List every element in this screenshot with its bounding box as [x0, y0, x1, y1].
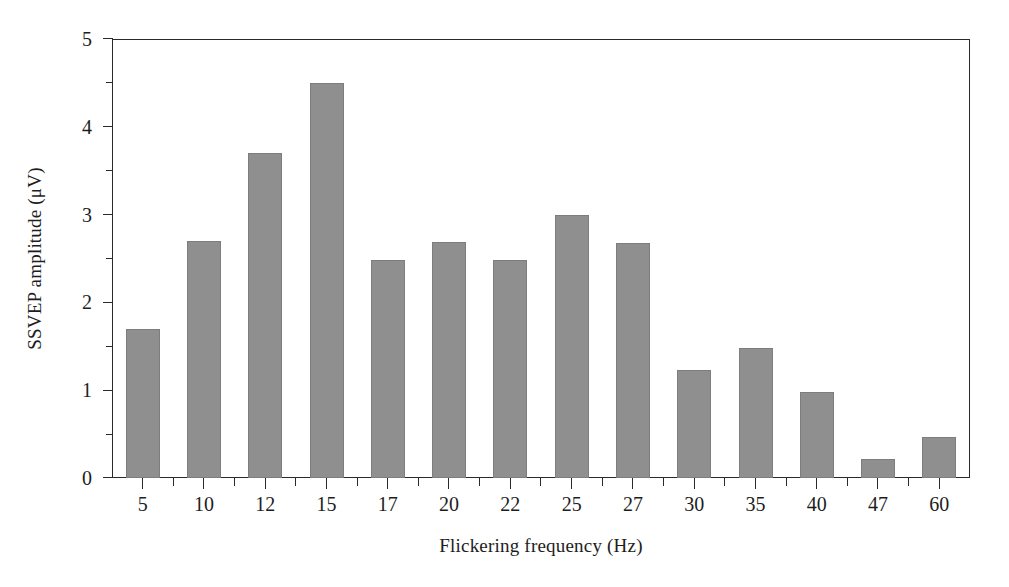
x-axis-tick-major: [510, 478, 511, 489]
bar: [187, 241, 221, 478]
bar: [800, 392, 834, 478]
x-axis-tick-minor: [295, 478, 296, 486]
x-axis-tick-major: [142, 478, 143, 489]
y-axis-tick-label: 5: [52, 29, 92, 49]
y-axis-tick-label: 3: [52, 205, 92, 225]
x-axis-tick-minor: [602, 478, 603, 486]
x-axis-tick-label: 22: [475, 494, 545, 514]
x-axis-tick-major: [203, 478, 204, 489]
x-axis-tick-label: 5: [108, 494, 178, 514]
x-axis-tick-minor: [663, 478, 664, 486]
x-axis-tick-minor: [479, 478, 480, 486]
x-axis-tick-label: 12: [230, 494, 300, 514]
bars-layer: [112, 39, 970, 478]
bar: [677, 370, 711, 478]
x-axis-tick-label: 47: [843, 494, 913, 514]
bar: [310, 83, 344, 478]
x-axis-tick-minor: [234, 478, 235, 486]
x-axis-tick-minor: [724, 478, 725, 486]
y-axis-tick-label: 0: [52, 468, 92, 488]
x-axis-tick-label: 40: [782, 494, 852, 514]
x-axis-tick-label: 30: [659, 494, 729, 514]
x-axis-tick-label: 25: [537, 494, 607, 514]
y-axis-tick-label: 4: [52, 117, 92, 137]
x-axis-tick-minor: [540, 478, 541, 486]
x-axis-tick-major: [939, 478, 940, 489]
x-axis-tick-label: 15: [292, 494, 362, 514]
x-axis-tick-minor: [173, 478, 174, 486]
bar: [922, 437, 956, 478]
y-axis-tick-label: 1: [52, 380, 92, 400]
x-axis-tick-major: [448, 478, 449, 489]
x-axis-tick-major: [816, 478, 817, 489]
x-axis-tick-major: [755, 478, 756, 489]
x-axis-tick-major: [877, 478, 878, 489]
bar: [126, 329, 160, 478]
x-axis-tick-major: [632, 478, 633, 489]
x-axis-tick-minor: [786, 478, 787, 486]
y-axis-tick-label: 2: [52, 292, 92, 312]
x-axis-tick-minor: [418, 478, 419, 486]
x-axis-tick-label: 27: [598, 494, 668, 514]
bar: [432, 242, 466, 478]
chart-figure: SSVEP amplitude (μV) 012345 510121517202…: [0, 0, 1009, 587]
bar: [493, 260, 527, 478]
x-axis-title: Flickering frequency (Hz): [112, 535, 970, 557]
x-axis-tick-label: 10: [169, 494, 239, 514]
x-axis-tick-major: [387, 478, 388, 489]
x-axis-tick-minor: [908, 478, 909, 486]
x-axis-tick-major: [326, 478, 327, 489]
bar: [248, 153, 282, 478]
bar: [555, 215, 589, 478]
x-axis-tick-label: 20: [414, 494, 484, 514]
x-axis-tick-major: [694, 478, 695, 489]
x-axis-tick-minor: [847, 478, 848, 486]
x-axis-tick-label: 17: [353, 494, 423, 514]
x-axis-tick-major: [571, 478, 572, 489]
x-axis-tick-major: [265, 478, 266, 489]
y-axis-title: SSVEP amplitude (μV): [18, 39, 52, 478]
x-axis-tick-minor: [357, 478, 358, 486]
x-axis-tick-label: 60: [904, 494, 974, 514]
bar: [371, 260, 405, 478]
bar: [861, 459, 895, 478]
bar: [739, 348, 773, 478]
bar: [616, 243, 650, 478]
x-axis-tick-label: 35: [721, 494, 791, 514]
